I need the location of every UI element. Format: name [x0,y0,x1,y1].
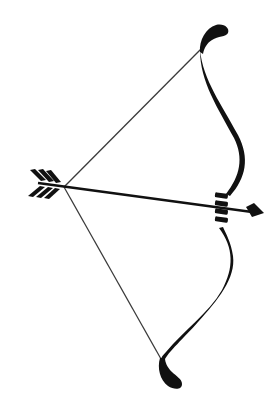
bow-and-arrow-illustration: bow and arrow [0,0,280,417]
bowstring-icon [64,49,201,359]
bow-arrow-svg [0,0,280,417]
arrowhead-icon [246,203,264,217]
